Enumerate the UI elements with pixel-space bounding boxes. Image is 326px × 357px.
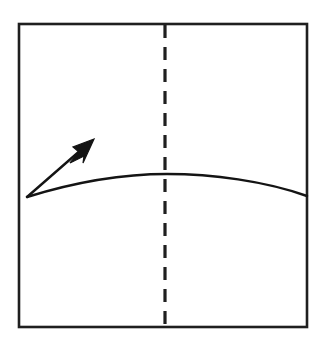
figure-root: [0, 0, 326, 357]
trajectory-diagram: [0, 0, 326, 357]
